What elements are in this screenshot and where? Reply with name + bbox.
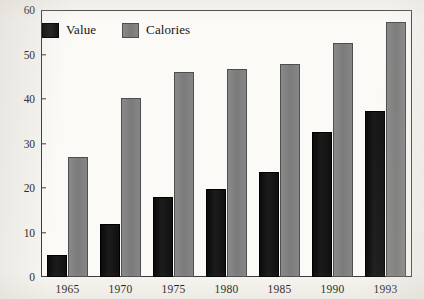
chart-page: 0102030405060 19651970197519801985199019… [0, 0, 424, 299]
y-tick-mark [41, 98, 46, 99]
x-tick-label: 1990 [321, 283, 345, 295]
x-tick-label: 1970 [109, 283, 133, 295]
x-tick-label: 1965 [56, 283, 80, 295]
y-tick-mark [41, 143, 46, 144]
x-tick-label: 1975 [162, 283, 186, 295]
x-tick-label: 1985 [268, 283, 292, 295]
y-tick-mark [41, 232, 46, 233]
legend-swatch-value-icon [42, 23, 59, 38]
x-tick-label: 1993 [374, 283, 398, 295]
x-tick-label: 1980 [215, 283, 239, 295]
legend-label-value: Value [66, 22, 96, 38]
legend-entry-value: Value [42, 22, 96, 38]
legend-entry-calories: Calories [122, 22, 190, 38]
chart-legend: Value Calories [42, 22, 190, 38]
legend-swatch-calories-icon [122, 23, 139, 38]
x-axis: 1965197019751980198519901993 [0, 0, 424, 299]
y-tick-mark [41, 54, 46, 55]
legend-label-calories: Calories [146, 22, 190, 38]
y-tick-mark [41, 187, 46, 188]
